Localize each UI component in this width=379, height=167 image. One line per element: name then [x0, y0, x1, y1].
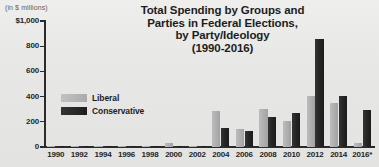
- bar-liberal-1992: [71, 146, 79, 147]
- x-tick-label-1994: 1994: [91, 150, 115, 159]
- bar-group-2012: [307, 21, 324, 147]
- x-tick-label-2004: 2004: [209, 150, 233, 159]
- bar-group-2004: [212, 21, 229, 147]
- x-tick-label-2008: 2008: [256, 150, 280, 159]
- y-axis-labels: 0200400600800$1,000: [0, 0, 39, 167]
- bar-group-1994: [94, 21, 111, 147]
- bar-conservative-1998: [150, 146, 158, 147]
- legend-label-conservative: Conservative: [92, 106, 144, 116]
- bar-group-2000: [165, 21, 182, 147]
- x-tick-label-2014: 2014: [327, 150, 351, 159]
- bar-liberal-2016: [354, 143, 362, 147]
- bar-conservative-2002: [198, 146, 206, 147]
- x-tick-label-1990: 1990: [44, 150, 68, 159]
- bar-conservative-1994: [103, 146, 111, 147]
- bar-liberal-2006: [236, 129, 244, 147]
- bar-conservative-1996: [127, 146, 135, 147]
- bar-group-1990: [47, 21, 64, 147]
- bar-group-2016: [354, 21, 371, 147]
- bar-liberal-1996: [118, 146, 126, 147]
- bar-conservative-2006: [245, 131, 253, 147]
- bar-conservative-2000: [174, 146, 182, 147]
- bar-group-2002: [189, 21, 206, 147]
- bar-conservative-2016: [363, 110, 371, 147]
- bar-conservative-1990: [56, 146, 64, 147]
- bar-liberal-2000: [165, 143, 173, 147]
- x-tick-label-2006: 2006: [233, 150, 257, 159]
- chart-title-line-1: Total Spending by Groups and: [95, 4, 350, 17]
- chart-legend: Liberal Conservative: [61, 92, 144, 118]
- bar-group-2010: [283, 21, 300, 147]
- bar-conservative-2008: [268, 117, 276, 147]
- y-tick-label-0: 0: [35, 142, 39, 151]
- bar-group-2006: [236, 21, 253, 147]
- bar-liberal-2014: [330, 103, 338, 147]
- x-tick-label-1996: 1996: [115, 150, 139, 159]
- x-tick-label-2010: 2010: [280, 150, 304, 159]
- bar-group-2008: [259, 21, 276, 147]
- bar-liberal-1994: [94, 146, 102, 147]
- bar-conservative-2004: [221, 128, 229, 147]
- legend-label-liberal: Liberal: [92, 93, 119, 103]
- bar-group-1996: [118, 21, 135, 147]
- bar-liberal-2004: [212, 111, 220, 147]
- y-tick-label-1000: $1,000: [15, 16, 39, 25]
- x-tick-label-2000: 2000: [162, 150, 186, 159]
- x-tick-label-2016: 2016*: [350, 150, 374, 159]
- bar-liberal-1998: [142, 146, 150, 147]
- bar-group-1998: [142, 21, 159, 147]
- bar-liberal-2002: [189, 146, 197, 147]
- bar-conservative-2014: [339, 96, 347, 147]
- x-tick-label-2002: 2002: [185, 150, 209, 159]
- bar-group-1992: [71, 21, 88, 147]
- bar-conservative-2010: [292, 113, 300, 147]
- bar-liberal-2010: [283, 121, 291, 147]
- bar-liberal-2012: [307, 96, 315, 147]
- y-tick-label-200: 200: [26, 117, 39, 126]
- bar-conservative-2012: [315, 39, 323, 147]
- legend-item-conservative: Conservative: [61, 105, 144, 116]
- y-tick-label-600: 600: [26, 66, 39, 75]
- bar-liberal-2008: [259, 109, 267, 147]
- y-tick-label-800: 800: [26, 41, 39, 50]
- x-tick-label-1998: 1998: [138, 150, 162, 159]
- liberal-swatch-icon: [61, 94, 87, 102]
- bar-group-2014: [330, 21, 347, 147]
- x-tick-label-1992: 1992: [68, 150, 92, 159]
- y-tick-label-400: 400: [26, 92, 39, 101]
- conservative-swatch-icon: [61, 107, 87, 115]
- chart-figure: (in $ millions) Total Spending by Groups…: [0, 0, 379, 167]
- legend-item-liberal: Liberal: [61, 92, 144, 103]
- x-tick-label-2012: 2012: [303, 150, 327, 159]
- bar-conservative-1992: [80, 146, 88, 147]
- plot-area: [44, 21, 374, 147]
- bar-liberal-1990: [47, 146, 55, 147]
